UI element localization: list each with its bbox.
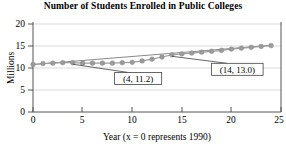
- annotation-leader-line: [172, 56, 227, 63]
- annotation-boxes: (4, 11.2)(14, 13.0): [115, 63, 263, 84]
- data-point: [269, 43, 274, 48]
- y-tick-label-10: 10: [16, 63, 26, 73]
- chart-plot-area: 20 15 10 5 0 0 5 10 15 20 25 Millions Ye…: [0, 0, 286, 146]
- annotation-label: (14, 13.0): [220, 65, 255, 75]
- chart-figure: Number of Students Enrolled in Public Co…: [0, 0, 286, 146]
- data-point: [100, 61, 105, 66]
- data-point: [41, 61, 46, 66]
- x-tick-label-0: 0: [31, 115, 36, 125]
- x-tick-label-10: 10: [127, 115, 137, 125]
- data-point: [229, 47, 234, 52]
- data-point: [160, 55, 165, 60]
- y-axis-label: Millions: [6, 52, 16, 85]
- y-tick-marks: [28, 24, 33, 112]
- x-tick-label-25: 25: [274, 115, 284, 125]
- x-tick-label-5: 5: [80, 115, 85, 125]
- data-point: [80, 61, 85, 66]
- y-tick-label-20: 20: [16, 19, 26, 29]
- annotation-label: (4, 11.2): [123, 74, 153, 84]
- x-tick-label-20: 20: [226, 115, 236, 125]
- data-point: [189, 51, 194, 56]
- data-point: [239, 46, 244, 51]
- y-tick-label-15: 15: [16, 41, 26, 51]
- annotation-leader-line: [73, 64, 129, 72]
- y-tick-label-5: 5: [20, 85, 25, 95]
- data-point: [150, 57, 155, 62]
- x-tick-marks: [33, 107, 281, 112]
- data-point: [50, 61, 55, 66]
- x-axis-label: Year (x = 0 represents 1990): [103, 132, 211, 143]
- data-point: [219, 48, 224, 53]
- data-point: [90, 61, 95, 66]
- data-point: [60, 60, 65, 65]
- data-point: [31, 62, 36, 67]
- data-point: [259, 44, 264, 49]
- data-point: [179, 52, 184, 57]
- data-point: [199, 50, 204, 55]
- y-tick-label-0: 0: [20, 107, 25, 117]
- x-tick-label-15: 15: [177, 115, 187, 125]
- data-point: [209, 49, 214, 54]
- data-point: [249, 45, 254, 50]
- data-point: [140, 59, 145, 64]
- data-point: [130, 60, 135, 65]
- data-point: [110, 61, 115, 66]
- data-point: [120, 60, 125, 65]
